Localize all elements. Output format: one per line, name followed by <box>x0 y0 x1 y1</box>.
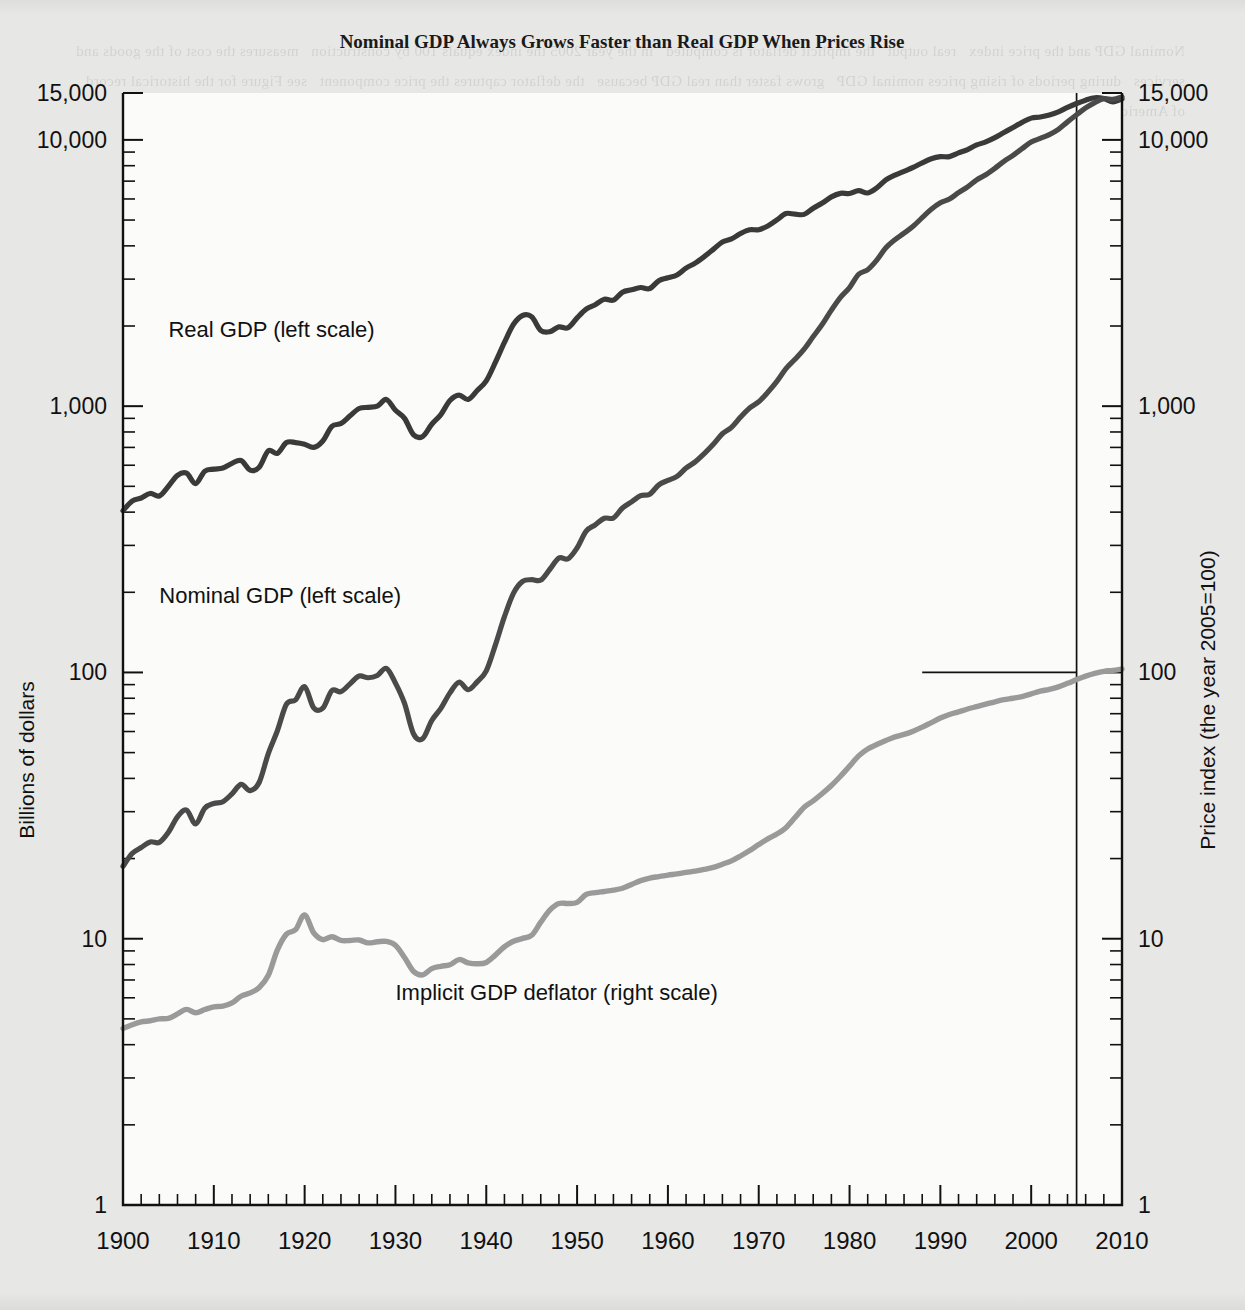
x-tick-label: 1910 <box>187 1227 240 1254</box>
y-tick-label-left: 10,000 <box>37 127 107 153</box>
y-tick-label-right: 10 <box>1138 926 1164 952</box>
y-tick-label-right: 100 <box>1138 659 1176 685</box>
series-annotation: Real GDP (left scale) <box>168 317 374 342</box>
x-tick-label: 1960 <box>641 1227 694 1254</box>
chart-svg: Nominal GDP Always Grows Faster than Rea… <box>0 0 1245 1310</box>
y-tick-label-left: 15,000 <box>37 80 107 106</box>
y-tick-label-right: 15,000 <box>1138 80 1208 106</box>
x-tick-label: 1930 <box>369 1227 422 1254</box>
y-tick-label-left: 100 <box>69 659 107 685</box>
y-axis-left-label: Billions of dollars <box>15 681 38 839</box>
series-annotation: Nominal GDP (left scale) <box>159 583 401 608</box>
y-tick-label-right: 1 <box>1138 1192 1151 1218</box>
y-tick-label-left: 1 <box>94 1192 107 1218</box>
chart-figure: Nominal GDP Always Grows Faster than Rea… <box>0 0 1245 1310</box>
x-tick-label: 1980 <box>823 1227 876 1254</box>
x-tick-label: 1900 <box>96 1227 149 1254</box>
y-tick-label-left: 10 <box>81 926 107 952</box>
x-tick-label: 2010 <box>1095 1227 1148 1254</box>
x-tick-label: 1940 <box>460 1227 513 1254</box>
y-tick-label-right: 1,000 <box>1138 393 1196 419</box>
x-tick-label: 1970 <box>732 1227 785 1254</box>
x-tick-label: 1920 <box>278 1227 331 1254</box>
y-tick-label-left: 1,000 <box>49 393 107 419</box>
y-axis-right-label: Price index (the year 2005=100) <box>1196 550 1219 849</box>
y-tick-label-right: 10,000 <box>1138 127 1208 153</box>
plot-area-background <box>123 93 1122 1205</box>
x-tick-label: 1990 <box>914 1227 967 1254</box>
chart-title: Nominal GDP Always Grows Faster than Rea… <box>340 31 905 52</box>
series-annotation: Implicit GDP deflator (right scale) <box>395 980 717 1005</box>
x-tick-label: 2000 <box>1004 1227 1057 1254</box>
x-tick-label: 1950 <box>550 1227 603 1254</box>
